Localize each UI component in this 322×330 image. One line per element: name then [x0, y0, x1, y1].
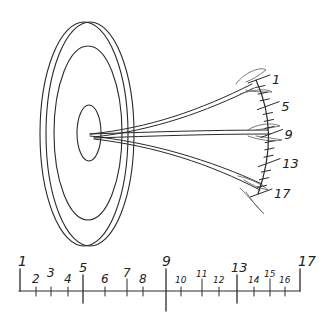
ruler-label-15: 15: [264, 269, 276, 279]
arrow-middle-fletching: [248, 124, 282, 141]
arc-tick-4: [260, 99, 269, 101]
ruler-label-2: 2: [32, 272, 40, 286]
arc-tick-17: [250, 189, 272, 197]
arc-label-1: 1: [272, 72, 280, 87]
arrow-bottom: [90, 136, 268, 214]
ruler-labels: 1234567891011121314151617: [18, 253, 316, 286]
ruler-label-17: 17: [298, 253, 316, 269]
ruler-label-8: 8: [139, 272, 147, 286]
arc-tick-3: [258, 92, 267, 94]
ruler-label-3: 3: [47, 266, 55, 280]
target: [40, 22, 134, 246]
arc-tick-2: [256, 86, 265, 88]
arc-label-13: 13: [282, 156, 299, 171]
arc-tick-15: [259, 178, 268, 180]
arc-tick-5: [257, 102, 279, 110]
ruler-label-14: 14: [248, 275, 260, 285]
arc-tick-14: [261, 170, 270, 172]
arc-tick-13: [258, 159, 280, 167]
arc-tick-1: [248, 75, 270, 83]
arrows: [90, 69, 282, 214]
arrow-top: [90, 69, 272, 137]
ruler: 1234567891011121314151617: [18, 253, 316, 311]
arc-label-9: 9: [285, 127, 293, 142]
arc-tick-12: [264, 155, 273, 157]
arc-labels: 1591317: [272, 72, 299, 201]
ruler-label-16: 16: [279, 275, 291, 285]
arc-tick-6: [263, 112, 272, 114]
target-arrows-diagram: 1591317 1234567891011121314151617: [0, 0, 322, 330]
ruler-label-1: 1: [18, 253, 27, 269]
ruler-label-10: 10: [175, 275, 187, 285]
arc-tick-7: [264, 119, 273, 121]
ruler-label-6: 6: [101, 272, 109, 286]
arrow-middle: [90, 124, 282, 141]
arc-label-17: 17: [274, 186, 291, 201]
ruler-label-13: 13: [231, 260, 248, 275]
arc-label-5: 5: [281, 99, 289, 114]
ruler-label-12: 12: [213, 275, 225, 285]
ruler-label-11: 11: [196, 269, 207, 279]
ruler-label-9: 9: [162, 253, 171, 269]
ruler-label-5: 5: [79, 260, 87, 275]
arc-tick-11: [265, 148, 274, 150]
arc-ticks: [248, 75, 282, 197]
ruler-label-7: 7: [123, 266, 131, 280]
arc-tick-9: [261, 130, 283, 138]
ruler-label-4: 4: [64, 272, 72, 286]
